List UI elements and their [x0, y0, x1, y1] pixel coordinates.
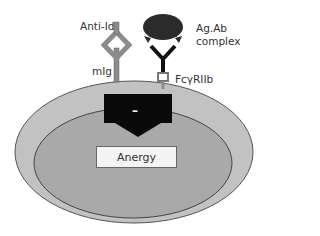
ag-ab-complex-icon [143, 14, 183, 75]
anti-id-label: Anti-Id [80, 20, 114, 32]
anergy-box: Anergy [96, 146, 177, 168]
fcgriib-label: FcγRIIb [175, 73, 213, 85]
anergy-label: Anergy [117, 151, 156, 164]
ag-ab-label-line2: complex [196, 35, 241, 47]
ag-ab-label-line1: Ag.Ab [196, 22, 227, 34]
inhibitory-signal-box [104, 94, 172, 123]
inhibition-sign: – [132, 105, 138, 117]
anti-id-stem [114, 22, 119, 34]
mig-label: mIg [92, 65, 112, 77]
